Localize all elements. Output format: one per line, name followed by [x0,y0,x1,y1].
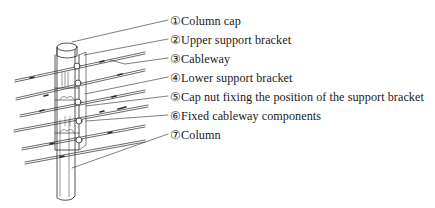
leader-lines [72,20,168,168]
label-cap-nut: ⑤Cap nut fixing the position of the supp… [170,90,424,104]
column [55,48,86,200]
label-upper-support-bracket: ②Upper support bracket [170,33,291,47]
label-lower-support-bracket: ④Lower support bracket [170,71,292,85]
cableway-column-diagram [0,0,435,208]
cableways [14,52,148,164]
label-column-cap: ①Column cap [170,14,241,28]
label-cableway: ③Cableway [170,52,230,66]
label-column: ⑦Column [170,128,221,142]
label-fixed-cableway-components: ⑥Fixed cableway components [170,109,321,123]
